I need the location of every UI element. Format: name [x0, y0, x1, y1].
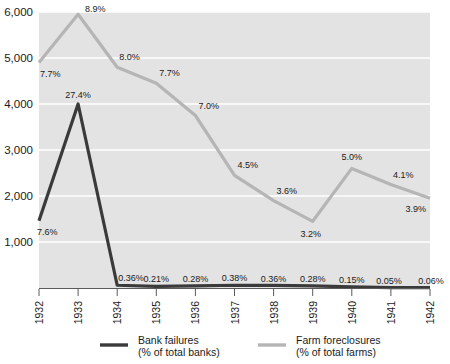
legend-series-name: Farm foreclosures — [296, 334, 381, 346]
data-label: 0.21% — [144, 274, 170, 284]
x-axis-tick-label: 1940 — [346, 301, 358, 325]
data-label: 7.6% — [37, 227, 58, 237]
legend-series-unit: (% of total banks) — [138, 346, 220, 358]
data-label: 0.05% — [376, 276, 402, 286]
legend-series-name: Bank failures — [138, 334, 199, 346]
data-label: 0.06% — [418, 276, 444, 286]
x-axis-tick-label: 1934 — [111, 301, 123, 325]
data-label: 3.9% — [405, 204, 426, 214]
y-axis-tick-label: 4,000 — [4, 98, 33, 110]
x-axis-tick-label: 1937 — [229, 301, 241, 325]
legend-series-unit: (% of total farms) — [296, 346, 376, 358]
data-label: 3.2% — [300, 229, 321, 239]
x-axis-tick-label: 1939 — [307, 301, 319, 325]
data-label: 4.5% — [238, 160, 259, 170]
x-axis-tick-label: 1936 — [189, 301, 201, 325]
data-label: 27.4% — [65, 90, 91, 100]
data-label: 0.38% — [222, 273, 248, 283]
data-label: 7.7% — [40, 69, 61, 79]
x-axis-tick-label: 1942 — [424, 301, 436, 325]
x-axis-tick-label: 1935 — [150, 301, 162, 325]
y-axis-tick-label: 1,000 — [4, 236, 33, 248]
data-label: 8.9% — [85, 4, 106, 14]
data-label: 8.0% — [119, 52, 140, 62]
x-axis-tick-label: 1938 — [268, 301, 280, 325]
y-axis-tick-label: 2,000 — [4, 190, 33, 202]
data-label: 0.36% — [261, 274, 287, 284]
data-label: 7.7% — [159, 68, 180, 78]
y-axis-tick-label: 3,000 — [4, 144, 33, 156]
data-label: 3.6% — [277, 186, 298, 196]
data-label: 0.28% — [300, 274, 326, 284]
y-axis-tick-label: 6,000 — [4, 6, 33, 18]
x-axis-tick-label: 1932 — [33, 301, 45, 325]
data-label: 0.28% — [183, 274, 209, 284]
data-label: 0.36% — [118, 273, 144, 283]
x-axis-tick-label: 1941 — [385, 301, 397, 325]
data-label: 0.15% — [339, 275, 365, 285]
economic-decline-line-chart: 1,0002,0003,0004,0005,0006,000 7.6%27.4%… — [0, 0, 450, 364]
data-label: 7.0% — [198, 101, 219, 111]
y-axis-tick-label: 5,000 — [4, 52, 33, 64]
data-label: 5.0% — [342, 152, 363, 162]
chart-container: 1,0002,0003,0004,0005,0006,000 7.6%27.4%… — [0, 0, 450, 364]
data-label: 4.1% — [393, 170, 414, 180]
x-axis-tick-label: 1933 — [72, 301, 84, 325]
